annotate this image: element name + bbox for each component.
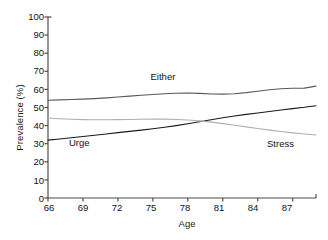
chart-figure: Prevalence (%) 100 90 80 70 60 50 40 30 … bbox=[0, 0, 328, 240]
axis-lines bbox=[48, 17, 316, 198]
axis-ticks bbox=[45, 17, 317, 202]
plot-area bbox=[0, 0, 328, 240]
series-lines bbox=[48, 86, 316, 140]
